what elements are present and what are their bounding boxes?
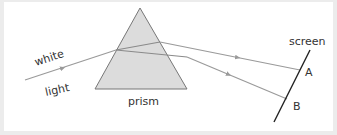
ray-b xyxy=(187,57,287,99)
label-prism: prism xyxy=(128,95,159,108)
label-screen: screen xyxy=(289,35,326,48)
label-point-a: A xyxy=(305,66,313,79)
label-point-b: B xyxy=(293,100,301,113)
diagram-frame: white light prism screen A B xyxy=(0,0,337,135)
label-light: light xyxy=(44,81,71,99)
prism-shape xyxy=(95,8,187,89)
prism-dispersion-diagram: white light prism screen A B xyxy=(0,0,337,135)
screen-line xyxy=(274,50,310,122)
label-white: white xyxy=(33,47,66,69)
